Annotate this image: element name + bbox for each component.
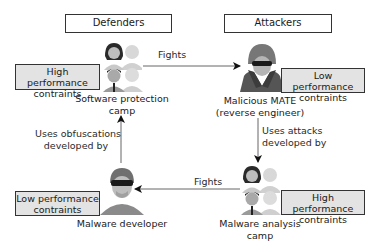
malicious-mate-caption: Malicious MATE (reverse engineer)	[210, 95, 310, 119]
group-of-people-icon	[100, 42, 146, 92]
malware-analysis-caption: Malware analysis camp	[210, 218, 310, 242]
constraint-line1: Low performance	[16, 193, 99, 204]
malware-developer-constraint-box: Low performance contraints	[15, 191, 100, 216]
malicious-mate-constraint-box: Low performance contraints	[281, 68, 365, 93]
constraint-line1: High performance	[16, 66, 99, 88]
caption-line1: Malicious MATE	[210, 95, 310, 107]
malware-developer-caption: Malware developer	[72, 218, 172, 230]
uses-obfuscations-line1: Uses obfuscations	[35, 128, 117, 140]
malware-analysis-constraint-box: High performance contraints	[281, 190, 365, 215]
caption-line2: camp	[72, 105, 172, 117]
software-protection-caption: Software protection camp	[72, 93, 172, 117]
hooded-hacker-icon	[238, 42, 286, 92]
uses-obfuscations-line2: developed by	[35, 140, 117, 152]
caption-line2: (reverse engineer)	[210, 107, 310, 119]
constraint-line1: High performance	[282, 192, 364, 214]
caption-line1: Software protection	[72, 93, 172, 105]
constraint-line2: contraints	[16, 204, 99, 215]
software-protection-constraint-box: High performance contraints	[15, 64, 100, 90]
uses-attacks-label: Uses attacks developed by	[262, 125, 326, 149]
uses-attacks-line2: developed by	[262, 137, 326, 149]
uses-obfuscations-label: Uses obfuscations developed by	[35, 128, 117, 152]
bottom-fights-label: Fights	[194, 176, 222, 188]
caption-line2: camp	[210, 230, 310, 242]
caption-line1: Malware developer	[72, 218, 172, 230]
uses-attacks-line1: Uses attacks	[262, 125, 326, 137]
constraint-line1: Low performance	[282, 70, 364, 92]
hacker-icon	[98, 165, 146, 215]
top-fights-label: Fights	[158, 49, 186, 61]
group-of-people-icon	[238, 165, 284, 215]
caption-line1: Malware analysis	[210, 218, 310, 230]
